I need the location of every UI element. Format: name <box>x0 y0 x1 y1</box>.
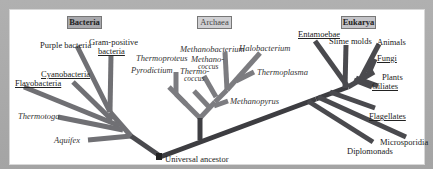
figure-frame: Bacteria Archaea Eukarya Purple bacteria… <box>0 0 433 169</box>
taxon-thermococcus-line2: coccus <box>184 75 204 83</box>
taxon-microsporidia: Microsporidia <box>380 138 428 146</box>
taxon-halobacterium: Halobacterium <box>239 44 290 52</box>
taxon-thermoplasma: Thermoplasma <box>257 68 308 76</box>
taxon-pyrodictium: Pyrodictium <box>131 66 173 74</box>
taxon-methanobacterium: Methanobacterium <box>180 45 245 53</box>
taxon-purple-bacteria: Purple bacteria <box>40 41 91 49</box>
taxon-diplomonads: Diplomonads <box>347 147 393 155</box>
taxon-slime-molds: Slime molds <box>329 37 372 45</box>
taxon-thermoproteus: Thermoproteus <box>136 54 188 62</box>
taxon-animals: Animals <box>377 38 406 46</box>
taxon-fungi: Fungi <box>377 54 397 62</box>
taxon-plants: Plants <box>382 73 403 81</box>
archaea-domain-label: Archaea <box>197 16 232 29</box>
taxon-aquifex: Aquifex <box>54 136 80 144</box>
bacteria-branches <box>24 46 131 140</box>
taxon-methanopyrus: Methanopyrus <box>230 97 279 105</box>
taxon-cyanobacteria: Cyanobacteria <box>41 70 90 78</box>
taxon-flavobacteria: Flavobacteria <box>15 79 61 87</box>
taxon-gram-positive-line2: bacteria <box>98 47 125 55</box>
bacteria-domain-label: Bacteria <box>67 16 102 29</box>
taxon-gram-positive-line1: Gram-positive <box>89 38 138 46</box>
taxon-ciliates: Ciliates <box>372 82 398 90</box>
eukarya-domain-label: Eukarya <box>341 16 376 29</box>
universal-ancestor-label: Universal ancestor <box>165 155 229 163</box>
taxon-flagellates: Flagellates <box>369 112 406 120</box>
taxon-thermotoga: Thermotoga <box>18 112 60 120</box>
